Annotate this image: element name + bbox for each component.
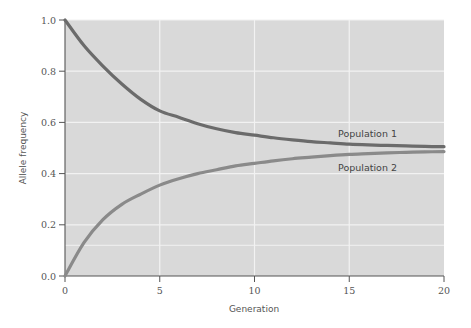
x-tick-label: 15 — [343, 285, 355, 296]
x-tick-label: 5 — [157, 285, 163, 296]
y-tick-label: 0.6 — [41, 117, 56, 128]
x-tick-label: 20 — [438, 285, 450, 296]
y-tick-label: 0.0 — [41, 271, 56, 282]
series-label-population-1: Population 1 — [338, 128, 397, 139]
y-tick-label: 0.2 — [41, 219, 56, 230]
series-label-population-2: Population 2 — [338, 162, 397, 173]
y-tick-label: 0.4 — [41, 168, 56, 179]
y-axis-label: Allele frequency — [18, 111, 28, 184]
x-axis-label: Generation — [229, 304, 279, 314]
allele-frequency-chart: 0.00.20.40.60.81.005101520 Population 1 … — [0, 0, 471, 328]
x-tick-label: 10 — [248, 285, 260, 296]
y-tick-label: 1.0 — [41, 15, 56, 26]
y-tick-label: 0.8 — [41, 66, 56, 77]
x-tick-label: 0 — [62, 285, 68, 296]
